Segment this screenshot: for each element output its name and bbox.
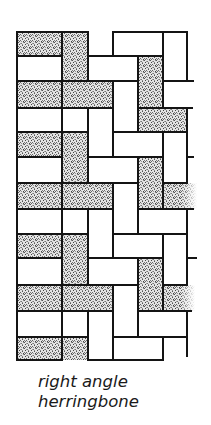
brick-shaded — [62, 183, 113, 209]
herringbone-pattern-diagram — [0, 0, 211, 370]
brick-shaded — [138, 56, 163, 108]
brick-fade — [163, 285, 195, 311]
caption-line-2: herringbone — [38, 392, 139, 412]
brick-shaded — [62, 132, 88, 183]
brick-plain — [17, 157, 62, 183]
brick-plain — [17, 311, 62, 337]
brick-plain — [113, 132, 163, 157]
brick-shaded — [138, 157, 163, 209]
brick-shaded — [62, 81, 113, 108]
brick-plain — [163, 32, 187, 81]
brick-shaded — [17, 81, 62, 108]
brick-plain — [113, 81, 138, 132]
brick-plain — [88, 56, 138, 81]
brick-fade — [163, 183, 197, 209]
brick-plain — [62, 209, 88, 234]
brick-plain — [113, 234, 163, 258]
brick-plain — [17, 56, 62, 81]
brick-plain — [113, 32, 163, 56]
brick-plain — [17, 258, 62, 285]
brick-plain — [113, 285, 138, 337]
brick-plain — [163, 234, 187, 285]
brick-plain — [113, 337, 163, 360]
brick-plain — [113, 183, 138, 234]
brick-shaded — [17, 183, 62, 209]
brick-plain — [88, 258, 138, 285]
brick-plain — [17, 209, 62, 234]
brick-plain — [88, 209, 113, 258]
brick-shaded — [62, 32, 88, 81]
brick-shaded — [62, 234, 88, 285]
brick-layer — [17, 32, 197, 360]
brick-shaded — [17, 234, 62, 258]
caption-line-1: right angle — [38, 372, 128, 392]
brick-plain — [138, 311, 187, 337]
brick-shaded — [17, 337, 62, 360]
brick-shaded — [17, 285, 62, 311]
brick-plain — [62, 108, 88, 132]
brick-plain — [17, 108, 62, 132]
brick-plain — [163, 132, 187, 183]
brick-plain — [88, 157, 138, 183]
brick-shaded — [138, 108, 187, 132]
brick-plain — [88, 108, 113, 157]
brick-shaded — [17, 132, 62, 157]
brick-shaded — [62, 337, 88, 360]
brick-plain — [163, 337, 187, 360]
brick-shaded — [62, 285, 113, 311]
brick-shaded — [17, 32, 62, 56]
brick-shaded — [138, 258, 163, 311]
brick-plain — [138, 209, 187, 234]
brick-plain — [88, 311, 113, 360]
brick-plain — [62, 311, 88, 337]
